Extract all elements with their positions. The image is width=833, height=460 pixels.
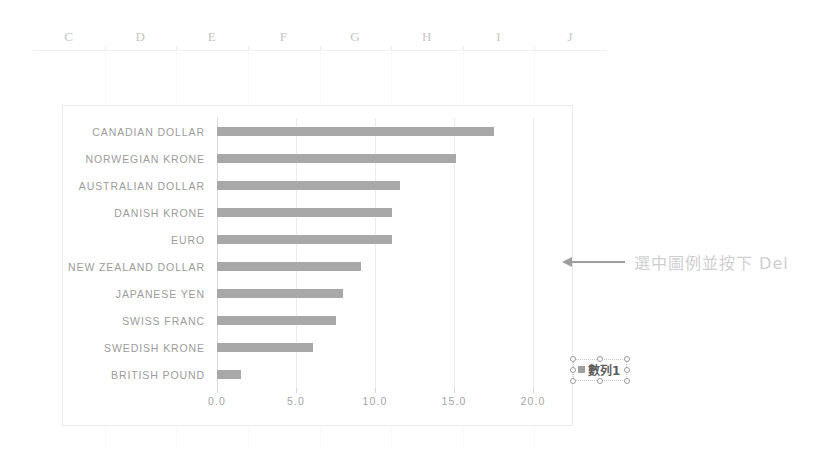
selection-handle[interactable] (570, 378, 576, 384)
category-label: BRITISH POUND (111, 367, 205, 383)
axis-tick-label: 5.0 (276, 395, 316, 407)
axis-tick-mark (296, 388, 297, 393)
category-label: SWEDISH KRONE (104, 340, 205, 356)
legend-series-marker-icon (578, 366, 585, 373)
axis-tick-mark (217, 388, 218, 393)
plot-area (217, 118, 533, 388)
bar[interactable] (217, 154, 456, 163)
annotation-text: 選中圖例並按下 Del (634, 250, 789, 274)
bar[interactable] (217, 316, 336, 325)
axis-tick-label: 10.0 (355, 395, 395, 407)
bar[interactable] (217, 343, 313, 352)
category-label: EURO (171, 232, 205, 248)
bar[interactable] (217, 289, 343, 298)
category-label: NORWEGIAN KRONE (86, 151, 205, 167)
axis-tick-mark (375, 388, 376, 393)
selection-handle[interactable] (570, 356, 576, 362)
axis-tick-mark (454, 388, 455, 393)
category-label: JAPANESE YEN (116, 286, 205, 302)
category-label: SWISS FRANC (122, 313, 205, 329)
selection-handle[interactable] (597, 378, 603, 384)
column-header-d[interactable]: D (105, 24, 177, 50)
selection-handle[interactable] (624, 378, 630, 384)
category-axis: CANADIAN DOLLARNORWEGIAN KRONEAUSTRALIAN… (63, 118, 211, 388)
category-label: CANADIAN DOLLAR (92, 124, 205, 140)
selection-handle[interactable] (597, 356, 603, 362)
bar[interactable] (217, 235, 392, 244)
legend-series-label: 數列1 (588, 361, 620, 378)
axis-tick-mark (533, 388, 534, 393)
bar[interactable] (217, 370, 241, 379)
column-header-f[interactable]: F (248, 24, 320, 50)
category-label: DANISH KRONE (114, 205, 205, 221)
selection-handle[interactable] (570, 367, 576, 373)
annotation-leader-line (571, 261, 625, 263)
column-header-c[interactable]: C (33, 24, 105, 50)
gridline (533, 118, 534, 388)
column-header-i[interactable]: I (463, 24, 535, 50)
column-header-j[interactable]: J (534, 24, 606, 50)
axis-tick-label: 20.0 (513, 395, 553, 407)
axis-tick-label: 15.0 (434, 395, 474, 407)
category-label: NEW ZEALAND DOLLAR (68, 259, 205, 275)
value-axis: 0.05.010.015.020.0 (217, 388, 533, 418)
bar[interactable] (217, 181, 400, 190)
axis-tick-label: 0.0 (197, 395, 237, 407)
chart-legend-selected[interactable]: 數列1 (565, 352, 635, 388)
bar[interactable] (217, 262, 361, 271)
selection-handle[interactable] (624, 356, 630, 362)
category-label: AUSTRALIAN DOLLAR (79, 178, 205, 194)
embedded-chart[interactable]: CANADIAN DOLLARNORWEGIAN KRONEAUSTRALIAN… (62, 105, 573, 426)
column-header-h[interactable]: H (391, 24, 463, 50)
instruction-annotation: 選中圖例並按下 Del (562, 248, 828, 280)
column-header-e[interactable]: E (176, 24, 248, 50)
bar[interactable] (217, 208, 392, 217)
column-header-row: CDEFGHIJ (33, 24, 606, 50)
selection-handle[interactable] (624, 367, 630, 373)
bar[interactable] (217, 127, 494, 136)
column-header-g[interactable]: G (320, 24, 392, 50)
